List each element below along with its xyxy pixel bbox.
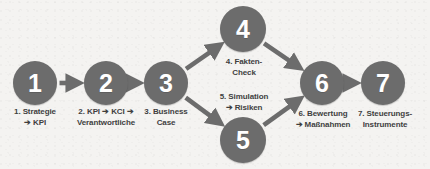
process-step-4[interactable]: 4 <box>220 6 266 52</box>
process-step-3[interactable]: 3 <box>144 61 188 105</box>
process-diagram: 1234567 1. Strategie ➔ KPI2. KPI ➔ KCI ➔… <box>0 0 430 169</box>
step-label-3: 3. Business Case <box>131 107 201 128</box>
process-step-6[interactable]: 6 <box>300 61 344 105</box>
step-label-1: 1. Strategie ➔ KPI <box>0 107 70 128</box>
step-label-4: 4. Fakten- Check <box>214 57 274 78</box>
step-number-1: 1 <box>28 71 42 96</box>
step-label-7: 7. Steuerungs- Instrumente <box>347 109 423 130</box>
step-label-5: 5. Simulation ➔ Risiken <box>210 92 278 113</box>
process-step-5[interactable]: 5 <box>220 117 266 163</box>
process-step-7[interactable]: 7 <box>361 61 405 105</box>
process-step-2[interactable]: 2 <box>84 61 128 105</box>
step-number-5: 5 <box>236 128 250 153</box>
process-step-1[interactable]: 1 <box>13 61 57 105</box>
step-number-3: 3 <box>159 71 173 96</box>
step-number-6: 6 <box>315 71 329 96</box>
step-number-4: 4 <box>236 17 250 42</box>
step-number-7: 7 <box>376 71 390 96</box>
step-number-2: 2 <box>99 71 113 96</box>
